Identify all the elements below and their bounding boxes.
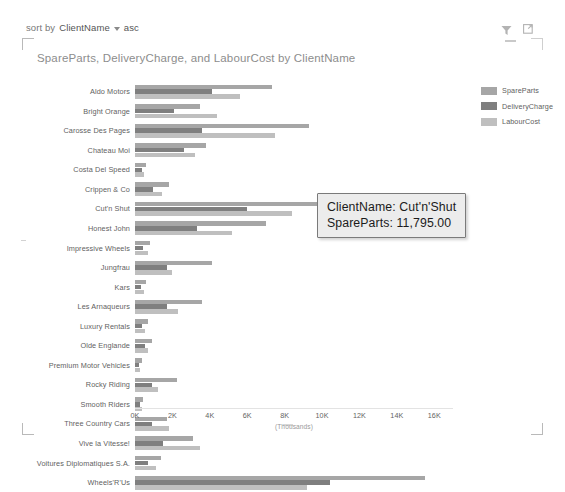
- bar-group[interactable]: Olde Englande: [22, 336, 470, 356]
- visual-frame-corner-top-right: [531, 38, 543, 50]
- sort-by-field[interactable]: ClientName: [59, 22, 110, 33]
- bar-spareparts[interactable]: [135, 241, 150, 245]
- bar-labourcost[interactable]: [135, 290, 144, 294]
- bar-spareparts[interactable]: [135, 280, 146, 284]
- bar-deliverycharge[interactable]: [135, 480, 330, 484]
- bar-labourcost[interactable]: [135, 94, 240, 98]
- bar-spareparts[interactable]: [135, 378, 177, 382]
- bar-labourcost[interactable]: [135, 133, 275, 137]
- bar-spareparts[interactable]: [135, 221, 266, 225]
- bar-labourcost[interactable]: [135, 172, 144, 176]
- bar-group[interactable]: Costa Del Speed: [22, 160, 470, 180]
- bar-labourcost[interactable]: [135, 192, 162, 196]
- bar-spareparts[interactable]: [135, 163, 146, 167]
- bar-spareparts[interactable]: [135, 143, 206, 147]
- bar-group[interactable]: Premium Motor Vehicles: [22, 356, 470, 376]
- bar-deliverycharge[interactable]: [135, 246, 143, 250]
- x-axis-tick-label: 6K: [243, 411, 252, 420]
- bar-spareparts[interactable]: [135, 358, 142, 362]
- bar-chart-plot-area: Aldo MotorsBright OrangeCarosse Des Page…: [22, 78, 470, 408]
- bar-labourcost[interactable]: [135, 466, 156, 470]
- category-label: Cut'n Shut: [22, 205, 135, 212]
- bar-deliverycharge[interactable]: [135, 168, 142, 172]
- category-label: Smooth Riders: [22, 401, 135, 408]
- bar-labourcost[interactable]: [135, 446, 200, 450]
- sort-direction[interactable]: asc: [124, 22, 139, 33]
- bar-deliverycharge[interactable]: [135, 461, 148, 465]
- bar-spareparts[interactable]: [135, 397, 143, 401]
- bar-deliverycharge[interactable]: [135, 402, 140, 406]
- bar-group[interactable]: Bright Orange: [22, 102, 470, 122]
- x-axis-tick-label: 0K: [131, 411, 140, 420]
- bar-labourcost[interactable]: [135, 231, 232, 235]
- bar-spareparts[interactable]: [135, 319, 148, 323]
- bar-labourcost[interactable]: [135, 211, 292, 215]
- bar-deliverycharge[interactable]: [135, 128, 202, 132]
- bar-labourcost[interactable]: [135, 270, 172, 274]
- bar-deliverycharge[interactable]: [135, 285, 141, 289]
- bar-labourcost[interactable]: [135, 348, 148, 352]
- bar-deliverycharge[interactable]: [135, 265, 167, 269]
- bar-labourcost[interactable]: [135, 485, 307, 489]
- bar-deliverycharge[interactable]: [135, 383, 152, 387]
- bar-spareparts[interactable]: [135, 104, 200, 108]
- bar-spareparts[interactable]: [135, 436, 193, 440]
- bar-group[interactable]: Luxury Rentals: [22, 317, 470, 337]
- bar-spareparts[interactable]: [135, 476, 425, 480]
- bar-deliverycharge[interactable]: [135, 324, 142, 328]
- bar-group[interactable]: Chateau Moi: [22, 141, 470, 161]
- bar-group-bars: [135, 453, 470, 473]
- bar-group[interactable]: Vive la Vitesse!: [22, 434, 470, 454]
- filter-icon[interactable]: [501, 25, 512, 36]
- bar-labourcost[interactable]: [135, 251, 148, 255]
- x-axis-title: (Thousands): [135, 423, 453, 430]
- bar-labourcost[interactable]: [135, 387, 158, 391]
- legend-item[interactable]: LabourCost: [481, 117, 553, 126]
- bar-deliverycharge[interactable]: [135, 207, 247, 211]
- bar-group[interactable]: Aldo Motors: [22, 82, 470, 102]
- sort-by-control[interactable]: sort by ClientName asc: [26, 22, 139, 33]
- bar-group[interactable]: Voitures Diplomatiques S.A.: [22, 453, 470, 473]
- bar-group-bars: [135, 121, 470, 141]
- bar-deliverycharge[interactable]: [135, 187, 153, 191]
- bar-spareparts[interactable]: [135, 124, 309, 128]
- category-label: Les Arnaqueurs: [22, 303, 135, 310]
- bar-group[interactable]: Rocky Riding: [22, 375, 470, 395]
- bar-group[interactable]: Kars: [22, 277, 470, 297]
- bar-group[interactable]: Carosse Des Pages: [22, 121, 470, 141]
- bar-deliverycharge[interactable]: [135, 89, 212, 93]
- bar-group[interactable]: Impressive Wheels: [22, 238, 470, 258]
- bar-labourcost[interactable]: [135, 329, 145, 333]
- bar-group[interactable]: Les Arnaqueurs: [22, 297, 470, 317]
- legend-item[interactable]: SpareParts: [481, 86, 553, 95]
- minimize-icon[interactable]: [505, 40, 516, 42]
- legend-item[interactable]: DeliveryCharge: [481, 102, 553, 111]
- bar-spareparts[interactable]: [135, 456, 161, 460]
- bar-spareparts[interactable]: [135, 85, 272, 89]
- bar-spareparts[interactable]: [135, 300, 202, 304]
- chevron-down-icon[interactable]: [114, 27, 120, 31]
- bar-groups: Aldo MotorsBright OrangeCarosse Des Page…: [22, 82, 470, 492]
- bar-deliverycharge[interactable]: [135, 344, 145, 348]
- bar-group[interactable]: Wheels'R'Us: [22, 473, 470, 492]
- bar-deliverycharge[interactable]: [135, 226, 197, 230]
- bar-labourcost[interactable]: [135, 114, 217, 118]
- bar-labourcost[interactable]: [135, 309, 178, 313]
- focus-mode-icon[interactable]: [523, 24, 535, 36]
- bar-spareparts[interactable]: [135, 339, 152, 343]
- bar-labourcost[interactable]: [135, 153, 195, 157]
- bar-deliverycharge[interactable]: [135, 363, 139, 367]
- bar-deliverycharge[interactable]: [135, 304, 167, 308]
- category-label: Premium Motor Vehicles: [22, 362, 135, 369]
- category-label: Honest John: [22, 225, 135, 232]
- category-label: Rocky Riding: [22, 381, 135, 388]
- bar-spareparts[interactable]: [135, 261, 212, 265]
- x-axis-tick-label: 16K: [428, 411, 441, 420]
- bar-deliverycharge[interactable]: [135, 441, 163, 445]
- bar-group-bars: [135, 141, 470, 161]
- bar-labourcost[interactable]: [135, 368, 140, 372]
- bar-spareparts[interactable]: [135, 182, 169, 186]
- bar-deliverycharge[interactable]: [135, 148, 184, 152]
- bar-group[interactable]: Jungfrau: [22, 258, 470, 278]
- bar-deliverycharge[interactable]: [135, 109, 174, 113]
